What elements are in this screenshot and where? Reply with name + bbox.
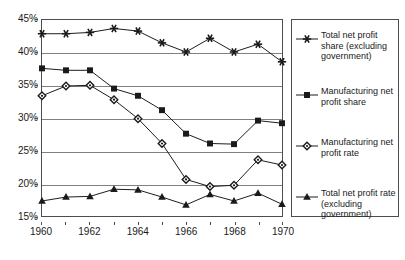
y-axis-tick-mark bbox=[35, 217, 38, 218]
square-icon bbox=[39, 65, 45, 71]
square-icon bbox=[63, 67, 69, 73]
y-axis-tick-label: 45% bbox=[2, 14, 38, 24]
x-axis-tick-label: 1964 bbox=[127, 226, 149, 238]
y-axis: 15%20%25%30%35%40%45% bbox=[0, 19, 38, 217]
y-axis-tick-mark bbox=[35, 118, 38, 119]
data-series bbox=[39, 65, 285, 147]
square-icon bbox=[183, 131, 189, 137]
legend-marker bbox=[296, 189, 318, 201]
square-icon bbox=[207, 141, 213, 147]
chart-legend: Total net profit share (excluding govern… bbox=[291, 19, 399, 217]
triangle-icon bbox=[206, 190, 214, 197]
y-axis-tick-label: 40% bbox=[2, 47, 38, 57]
x-axis-tick-mark bbox=[114, 222, 115, 225]
y-axis-tick-label: 35% bbox=[2, 80, 38, 90]
x-axis-tick-label: 1960 bbox=[30, 226, 52, 238]
data-series bbox=[38, 82, 286, 191]
diamond-icon bbox=[206, 183, 214, 191]
legend-label: Manufacturing net profit share bbox=[321, 86, 396, 107]
series-line bbox=[42, 68, 282, 144]
x-axis-tick-label: 1966 bbox=[175, 226, 197, 238]
square-icon bbox=[304, 92, 310, 98]
square-icon bbox=[231, 141, 237, 147]
legend-marker bbox=[296, 31, 318, 43]
x-axis-tick-mark bbox=[282, 222, 283, 225]
star-icon bbox=[86, 29, 94, 36]
x-axis-tick-label: 1970 bbox=[272, 226, 294, 238]
x-axis: 196019621964196619681970 bbox=[41, 222, 283, 238]
diamond-icon bbox=[303, 142, 311, 150]
star-icon bbox=[110, 25, 118, 32]
square-icon bbox=[87, 67, 93, 73]
x-axis-tick-mark bbox=[235, 222, 236, 225]
star-icon bbox=[38, 30, 46, 37]
x-axis-tick-label: 1968 bbox=[223, 226, 245, 238]
star-icon bbox=[206, 35, 214, 42]
x-axis-tick-mark bbox=[138, 222, 139, 225]
x-axis-tick-mark bbox=[259, 222, 260, 225]
triangle-icon bbox=[303, 193, 311, 200]
y-axis-tick-label: 20% bbox=[2, 179, 38, 189]
triangle-icon bbox=[278, 200, 286, 207]
x-axis-tick-mark bbox=[162, 222, 163, 225]
triangle-icon bbox=[134, 186, 142, 193]
star-icon bbox=[62, 30, 70, 37]
y-axis-tick-mark bbox=[35, 184, 38, 185]
y-axis-tick-label: 30% bbox=[2, 113, 38, 123]
star-icon bbox=[303, 35, 311, 42]
y-axis-tick-label: 25% bbox=[2, 146, 38, 156]
x-axis-tick-mark bbox=[41, 222, 42, 225]
square-icon bbox=[255, 118, 261, 124]
triangle-icon bbox=[62, 193, 70, 200]
data-series bbox=[38, 185, 286, 207]
data-series bbox=[38, 25, 286, 66]
triangle-icon bbox=[110, 185, 118, 192]
star-icon bbox=[230, 48, 238, 55]
y-axis-tick-mark bbox=[35, 19, 38, 20]
legend-marker bbox=[296, 87, 318, 99]
y-axis-tick-mark bbox=[35, 151, 38, 152]
diamond-icon bbox=[62, 82, 70, 90]
diamond-icon bbox=[182, 176, 190, 184]
series-layer bbox=[42, 20, 282, 216]
x-axis-tick-mark bbox=[186, 222, 187, 225]
legend-label: Manufacturing net profit rate bbox=[321, 137, 396, 158]
legend-entry[interactable]: Manufacturing net profit rate bbox=[296, 137, 396, 158]
x-axis-tick-mark bbox=[210, 222, 211, 225]
diamond-icon bbox=[38, 92, 46, 100]
chart-figure: 15%20%25%30%35%40%45% 196019621964196619… bbox=[0, 0, 405, 260]
square-icon bbox=[279, 120, 285, 126]
x-axis-tick-mark bbox=[65, 222, 66, 225]
square-icon bbox=[135, 93, 141, 99]
y-axis-tick-label: 15% bbox=[2, 212, 38, 222]
legend-entry[interactable]: Total net profit rate (excluding governm… bbox=[296, 188, 396, 220]
x-axis-tick-label: 1962 bbox=[78, 226, 100, 238]
star-icon bbox=[182, 48, 190, 55]
diamond-icon bbox=[278, 161, 286, 169]
triangle-icon bbox=[254, 189, 262, 196]
x-axis-tick-mark bbox=[89, 222, 90, 225]
legend-marker bbox=[296, 138, 318, 150]
y-axis-tick-mark bbox=[35, 85, 38, 86]
legend-label: Total net profit rate (excluding governm… bbox=[321, 188, 396, 220]
legend-entry[interactable]: Total net profit share (excluding govern… bbox=[296, 30, 396, 62]
plot-area bbox=[41, 19, 283, 217]
y-axis-tick-mark bbox=[35, 52, 38, 53]
square-icon bbox=[111, 86, 117, 92]
legend-label: Total net profit share (excluding govern… bbox=[321, 30, 396, 62]
series-line bbox=[42, 85, 282, 186]
diamond-icon bbox=[86, 82, 94, 90]
star-icon bbox=[134, 28, 142, 35]
series-line bbox=[42, 28, 282, 61]
legend-entry[interactable]: Manufacturing net profit share bbox=[296, 86, 396, 107]
square-icon bbox=[159, 107, 165, 113]
star-icon bbox=[158, 39, 166, 46]
